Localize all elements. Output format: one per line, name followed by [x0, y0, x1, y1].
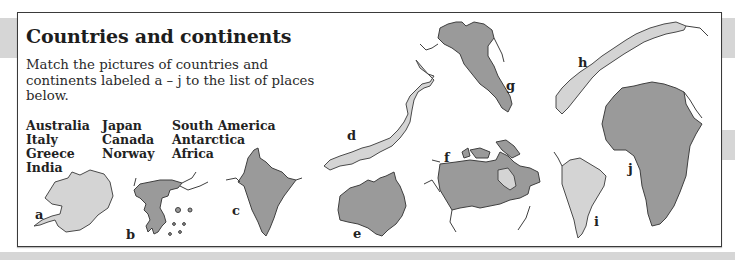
picture-label-d: d: [347, 128, 356, 143]
italy-shape: [438, 22, 512, 112]
picture-label-i: i: [594, 214, 599, 229]
picture-label-a: a: [35, 207, 43, 222]
picture-label-j: j: [628, 161, 633, 176]
canada-islands: [462, 140, 520, 158]
india-shape: [238, 148, 296, 236]
greece-island: [188, 208, 192, 212]
australia-shape: [338, 172, 406, 236]
south-america-shape: [562, 158, 606, 238]
norway-coast-line: [686, 26, 708, 36]
greece-island: [176, 208, 181, 213]
canada-shape: [438, 152, 540, 210]
south-america-coast-line: [554, 152, 562, 166]
greece-island: [183, 223, 186, 226]
picture-label-g: g: [506, 78, 515, 93]
greece-island: [173, 223, 176, 226]
greece-shape: [134, 180, 182, 234]
japan-shape: [324, 60, 434, 170]
picture-label-c: c: [232, 203, 240, 218]
maps-illustration: [0, 0, 735, 260]
greece-island: [179, 231, 182, 234]
greece-island: [169, 233, 172, 236]
picture-label-f: f: [444, 150, 450, 165]
antarctica-shape: [34, 170, 113, 232]
africa-shape: [602, 82, 702, 226]
picture-label-h: h: [578, 55, 587, 70]
picture-label-b: b: [126, 227, 135, 242]
picture-label-e: e: [353, 226, 361, 241]
